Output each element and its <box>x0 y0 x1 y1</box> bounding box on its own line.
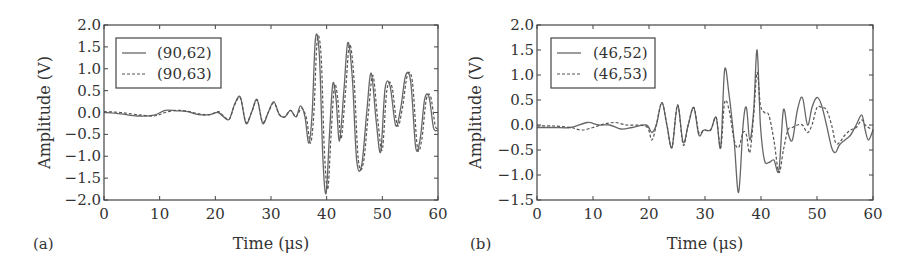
y-tick-label: −1.5 <box>498 191 534 209</box>
legend-label-1: (90,63) <box>157 65 212 83</box>
x-axis-label: Time (μs) <box>667 234 744 253</box>
x-tick-label: 10 <box>583 205 602 223</box>
y-tick-label: −0.5 <box>498 141 534 159</box>
y-tick-label: 1.5 <box>510 41 534 59</box>
x-tick-label: 0 <box>532 205 542 223</box>
figure: 2.01.51.00.50.0−0.5−1.0−1.5−2.0 01020304… <box>0 0 908 269</box>
x-tick-label: 50 <box>373 205 392 223</box>
y-tick-label: 1.0 <box>77 60 101 78</box>
y-tick-label: 0.0 <box>77 104 101 122</box>
y-tick-label: 2.0 <box>77 16 101 34</box>
chart-panel-a: 2.01.51.00.50.0−0.5−1.0−1.5−2.0 01020304… <box>33 16 448 253</box>
y-tick-label: 0.0 <box>510 116 534 134</box>
x-tick-labels: 0102030405060 <box>99 205 447 223</box>
y-tick-labels: 2.01.51.00.50.0−0.5−1.0−1.5 <box>498 16 534 209</box>
x-tick-label: 20 <box>206 205 225 223</box>
x-tick-label: 20 <box>639 205 658 223</box>
x-tick-labels: 0102030405060 <box>532 205 882 223</box>
y-tick-label: −1.0 <box>498 166 534 184</box>
x-tick-label: 60 <box>428 205 447 223</box>
y-axis-label: Amplitude (V) <box>466 56 485 170</box>
y-tick-label: 1.0 <box>510 66 534 84</box>
x-tick-label: 50 <box>807 205 826 223</box>
legend: (46,52) (46,53) <box>551 38 655 88</box>
x-tick-label: 0 <box>99 205 109 223</box>
x-tick-label: 40 <box>317 205 336 223</box>
panel-label-a: (a) <box>33 235 54 253</box>
chart-panel-b: 2.01.51.00.50.0−0.5−1.0−1.5 010203040506… <box>466 16 883 253</box>
y-tick-label: 1.5 <box>77 38 101 56</box>
x-tick-label: 30 <box>695 205 714 223</box>
y-tick-label: −2.0 <box>65 191 101 209</box>
y-axis-label: Amplitude (V) <box>35 56 54 170</box>
x-axis-label: Time (μs) <box>233 234 310 253</box>
y-tick-label: −1.5 <box>65 169 101 187</box>
x-tick-label: 30 <box>261 205 280 223</box>
legend: (90,62) (90,63) <box>116 38 221 88</box>
legend-label-0: (46,52) <box>593 44 648 62</box>
x-tick-label: 10 <box>150 205 169 223</box>
y-tick-label: −1.0 <box>65 147 101 165</box>
legend-label-1: (46,53) <box>593 65 648 83</box>
legend-label-0: (90,62) <box>157 44 212 62</box>
y-tick-label: −0.5 <box>65 125 101 143</box>
x-tick-label: 60 <box>863 205 882 223</box>
y-tick-labels: 2.01.51.00.50.0−0.5−1.0−1.5−2.0 <box>65 16 101 209</box>
panel-label-b: (b) <box>470 235 491 253</box>
x-tick-label: 40 <box>751 205 770 223</box>
y-tick-label: 0.5 <box>77 82 101 100</box>
y-tick-label: 2.0 <box>510 16 534 34</box>
y-tick-label: 0.5 <box>510 91 534 109</box>
